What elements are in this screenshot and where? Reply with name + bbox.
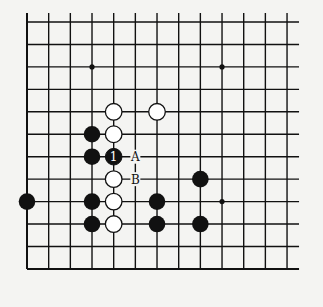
white-stone (105, 104, 122, 121)
black-stone (192, 171, 209, 188)
black-stone (84, 148, 101, 165)
go-board: AB1 (0, 0, 323, 307)
star-point (219, 64, 224, 69)
white-stone (149, 104, 166, 121)
white-stone (105, 193, 122, 210)
black-stone (84, 126, 101, 143)
point-label-a: A (130, 150, 140, 164)
move-number-label: 1 (110, 150, 118, 164)
white-stone (105, 171, 122, 188)
star-point (89, 64, 94, 69)
point-label-b: B (131, 173, 140, 187)
white-stone (105, 126, 122, 143)
star-point (219, 199, 224, 204)
white-stone (105, 216, 122, 233)
black-stone (84, 216, 101, 233)
black-stone (19, 193, 36, 210)
black-stone (149, 193, 166, 210)
black-stone (84, 193, 101, 210)
black-stone (192, 216, 209, 233)
black-stone (149, 216, 166, 233)
